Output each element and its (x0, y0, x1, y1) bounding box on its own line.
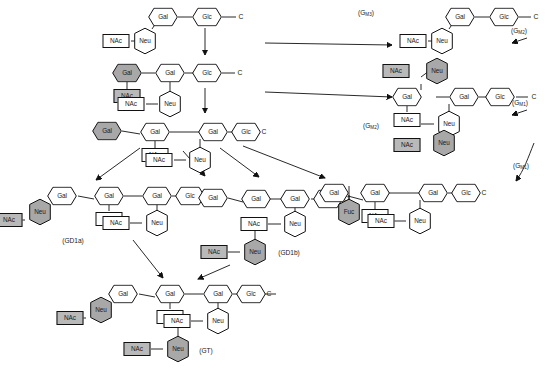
annotation-ann-gm3-topright: (GM3) (358, 10, 374, 18)
annotation-ann-gm3-mid: (GM2) (363, 123, 379, 131)
residue-label: NAc (3, 217, 15, 223)
residue-neu: Neu (29, 199, 51, 226)
residue-label: Gal (122, 70, 132, 76)
arrow-fuc (243, 146, 325, 178)
residue-label: Neu (194, 157, 205, 163)
arrow-in-gm2 (512, 38, 527, 43)
arrow-gt-right (198, 265, 230, 279)
residue-label: Neu (443, 121, 454, 127)
residue-label: NAc (208, 249, 220, 255)
residue-label: Glc (499, 14, 508, 20)
residue-gal: Gal (241, 190, 271, 209)
residue-label: NAc (110, 38, 122, 44)
residue-label: Glc (241, 129, 250, 135)
residue-glc: Glc (231, 123, 261, 142)
residue-label: Gal (459, 94, 469, 100)
residue-label: Neu (438, 140, 449, 146)
residue-label: Fuc (344, 209, 354, 215)
residue-glc: Glc (192, 64, 222, 83)
residue-ceramide: C (239, 14, 244, 21)
residue-label: NAc (131, 346, 143, 352)
arrow-gd1b-a (220, 148, 259, 177)
residue-gal: Gal (47, 187, 77, 206)
residue-label: Gal (118, 291, 128, 297)
residue-label: Neu (34, 209, 45, 215)
residue-nac: NAc (118, 97, 145, 111)
arrow-gd1a (96, 148, 140, 180)
residue-neu: Neu (90, 297, 112, 324)
residue-label: Gal (150, 129, 160, 135)
residue-neu: Neu (409, 208, 431, 235)
residue-label: Glc (246, 291, 255, 297)
residue-label: Neu (414, 218, 425, 224)
residue-label: NAc (125, 101, 137, 107)
residue-label: NAc (390, 68, 402, 74)
residue-label: Neu (139, 38, 150, 44)
residue-neu: Neu (167, 336, 189, 363)
residue-label: Glc (461, 190, 470, 196)
annotation-ann-gd1b: (GD1b) (278, 250, 300, 257)
residue-gal: Gal (198, 123, 228, 142)
residue-label: Neu (151, 220, 162, 226)
residue-label: Gal (370, 190, 380, 196)
residue-label: Gal (208, 195, 218, 201)
residue-label: Neu (249, 249, 260, 255)
residue-label: Neu (172, 346, 183, 352)
residue-neu: Neu (244, 239, 266, 266)
residue-label: Gal (213, 291, 223, 297)
annotation-ann-gm1-right: (GM1) (512, 100, 528, 108)
residue-gal: Gal (108, 285, 138, 304)
residue-label: Gal (290, 196, 300, 202)
residue-gal: Gal (155, 285, 185, 304)
residue-label: NAc (64, 315, 76, 321)
residue-nac: NAc (0, 213, 23, 227)
residue-label: Gal (251, 196, 261, 202)
residue-label: Gal (165, 70, 175, 76)
residue-glc: Glc (451, 184, 481, 203)
residue-label: NAc (171, 318, 183, 324)
arrow-gt-left (133, 240, 163, 278)
residue-neu: Neu (207, 308, 229, 335)
residue-nac: NAc (146, 153, 173, 167)
residue-label: NAc (401, 117, 413, 123)
residue-nac: NAc (57, 311, 84, 325)
residue-nac: NAc (394, 113, 421, 127)
residue-label: Gal (165, 291, 175, 297)
residue-label: Gal (152, 193, 162, 199)
residue-ceramide: C (534, 14, 539, 21)
residue-label: Neu (212, 318, 223, 324)
residue-label: Gal (329, 190, 339, 196)
residue-nac: NAc (383, 64, 410, 78)
residue-nac: NAc (368, 214, 395, 228)
residue-ceramide: C (267, 291, 272, 298)
residue-neu: Neu (426, 58, 448, 85)
residue-gal: Gal (140, 123, 170, 142)
residue-label: Neu (431, 68, 442, 74)
residue-neu: Neu (146, 210, 168, 237)
annotation-ann-gt: (GT) (199, 348, 213, 355)
residue-gal: Gal (445, 8, 475, 27)
residue-gal: Gal (392, 88, 422, 107)
residue-gal: Gal (198, 189, 228, 208)
residue-gal: Gal (112, 64, 142, 83)
residue-gal: Gal (280, 190, 310, 209)
annotation-ann-gm2-topright: (GM2) (511, 28, 527, 36)
residue-nac: NAc (241, 217, 268, 231)
residue-gal: Gal (203, 285, 233, 304)
residue-neu: Neu (284, 211, 306, 238)
residue-fuc: Fuc (338, 199, 360, 226)
residue-ceramide: C (262, 129, 267, 136)
residue-glc: Glc (489, 8, 519, 27)
residue-gal: Gal (94, 187, 124, 206)
annotation-ann-gm1-far: (GM1) (513, 163, 529, 171)
annotation-ann-gd1a: (GD1a) (62, 238, 84, 245)
ganglioside-pathway-diagram: GalGlcCNeuNAcGalGalGlcCNAcNeuNAcGalGalGa… (0, 0, 546, 374)
residue-neu: Neu (433, 130, 455, 157)
residue-label: Gal (102, 128, 112, 134)
residue-label: NAc (110, 220, 122, 226)
residue-label: NAc (407, 38, 419, 44)
residue-label: Neu (164, 101, 175, 107)
residue-label: NAc (248, 221, 260, 227)
residue-ceramide: C (482, 190, 487, 197)
residue-label: Neu (95, 307, 106, 313)
